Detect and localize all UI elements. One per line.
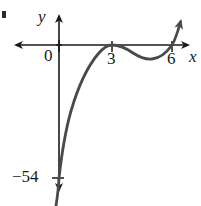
graph-figure: y x 0 3 6 −54 (0, 0, 201, 206)
origin-label: 0 (44, 47, 53, 64)
x-axis-label: x (189, 48, 197, 65)
y-axis-label: y (38, 8, 46, 25)
x-tick-label-6: 6 (167, 50, 176, 67)
y-tick-label-neg54: −54 (12, 168, 39, 185)
cubic-curve (56, 22, 181, 206)
corner-artifact-mark (2, 11, 6, 18)
x-tick-label-3: 3 (107, 50, 116, 67)
